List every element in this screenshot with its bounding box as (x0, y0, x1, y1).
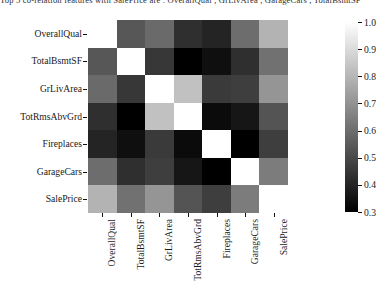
heatmap-cell (145, 75, 174, 103)
heatmap-cell (259, 158, 288, 186)
heatmap-cell (202, 185, 231, 213)
heatmap-cell (231, 20, 260, 48)
heatmap-cell (88, 75, 117, 103)
x-axis-tick-mark (274, 213, 275, 217)
heatmap-cell (88, 130, 117, 158)
figure-caption-text: Top 5 co-relation features with SalePric… (0, 0, 379, 6)
heatmap-cell (231, 185, 260, 213)
colorbar-tick-label: 0.7 (364, 98, 376, 109)
heatmap-plot-area (88, 20, 288, 213)
colorbar-tick-label: 0.9 (364, 44, 376, 55)
y-axis-tick-label: GarageCars (37, 166, 82, 178)
heatmap-cell (259, 185, 288, 213)
x-axis-tick-label: SalePrice (278, 219, 289, 255)
heatmap-cell (88, 158, 117, 186)
heatmap-cell (231, 103, 260, 131)
x-axis-tick-mark (159, 213, 160, 217)
x-axis-tick-mark (245, 213, 246, 217)
heatmap-cell (202, 158, 231, 186)
heatmap-cell (117, 75, 146, 103)
y-axis-tick-label: Fireplaces (43, 138, 82, 150)
heatmap-cell (145, 48, 174, 76)
heatmap-cell (202, 130, 231, 158)
heatmap-cell (202, 103, 231, 131)
heatmap-cell (117, 130, 146, 158)
colorbar-tick-mark (358, 76, 362, 77)
y-axis-tick-label: TotRmsAbvGrd (20, 111, 82, 123)
x-axis-tick-label: Fireplaces (221, 219, 232, 258)
colorbar-tick-label: 0.6 (364, 125, 376, 136)
heatmap-cell (88, 20, 117, 48)
colorbar-tick-mark (358, 131, 362, 132)
colorbar-tick-mark (358, 158, 362, 159)
heatmap-cell (231, 158, 260, 186)
x-axis-tick-label: GarageCars (249, 219, 260, 264)
heatmap-grid (88, 20, 288, 213)
heatmap-figure: Top 5 co-relation features with SalePric… (0, 0, 379, 306)
colorbar-tick-label: 1.0 (364, 17, 376, 28)
heatmap-cell (259, 20, 288, 48)
heatmap-cell (202, 20, 231, 48)
colorbar-gradient (345, 22, 358, 212)
y-axis-tick-label: GrLivArea (40, 83, 82, 95)
colorbar-tick-mark (358, 49, 362, 50)
heatmap-cell (145, 103, 174, 131)
heatmap-cell (259, 130, 288, 158)
heatmap-cell (145, 20, 174, 48)
heatmap-cell (117, 158, 146, 186)
heatmap-cell (202, 48, 231, 76)
y-axis-tick-mark (83, 199, 87, 200)
heatmap-cell (88, 103, 117, 131)
heatmap-cell (259, 75, 288, 103)
heatmap-cell (174, 48, 203, 76)
x-axis-tick-label: TotalBsmtSF (135, 219, 146, 270)
heatmap-cell (88, 185, 117, 213)
colorbar-tick-mark (358, 103, 362, 104)
heatmap-cell (174, 103, 203, 131)
y-axis-tick-label: OverallQual (35, 28, 82, 40)
heatmap-cell (117, 185, 146, 213)
heatmap-cell (231, 75, 260, 103)
heatmap-cell (145, 130, 174, 158)
heatmap-cell (117, 48, 146, 76)
x-axis-tick-label: GrLivArea (163, 219, 174, 261)
colorbar-tick-label: 0.4 (364, 179, 376, 190)
colorbar-tick-label: 0.5 (364, 152, 376, 163)
x-axis-tick-label: OverallQual (106, 219, 117, 266)
y-axis-tick-label: TotalBsmtSF (31, 55, 82, 67)
colorbar-tick-mark (358, 185, 362, 186)
y-axis-tick-mark (83, 117, 87, 118)
heatmap-cell (174, 75, 203, 103)
colorbar: 1.00.90.80.70.60.50.40.3 (345, 22, 358, 212)
heatmap-cell (231, 130, 260, 158)
colorbar-tick-label: 0.3 (364, 207, 376, 218)
heatmap-cell (117, 103, 146, 131)
heatmap-cell (145, 158, 174, 186)
colorbar-tick-mark (358, 22, 362, 23)
x-axis-tick-label: TotRmsAbvGrd (192, 219, 203, 281)
y-axis-tick-mark (83, 61, 87, 62)
heatmap-cell (88, 48, 117, 76)
heatmap-cell (259, 48, 288, 76)
heatmap-cell (259, 103, 288, 131)
x-axis-tick-mark (102, 213, 103, 217)
colorbar-tick-label: 0.8 (364, 71, 376, 82)
y-axis-tick-mark (83, 144, 87, 145)
x-axis-tick-mark (188, 213, 189, 217)
x-axis-labels: OverallQualTotalBsmtSFGrLivAreaTotRmsAbv… (88, 213, 288, 306)
y-axis-labels: OverallQualTotalBsmtSFGrLivAreaTotRmsAbv… (0, 20, 82, 213)
y-axis-tick-label: SalePrice (46, 193, 82, 205)
x-axis-tick-mark (217, 213, 218, 217)
x-axis-tick-mark (131, 213, 132, 217)
colorbar-tick-mark (358, 212, 362, 213)
heatmap-cell (145, 185, 174, 213)
heatmap-cell (174, 158, 203, 186)
heatmap-cell (202, 75, 231, 103)
heatmap-cell (174, 130, 203, 158)
heatmap-cell (174, 185, 203, 213)
heatmap-cell (174, 20, 203, 48)
y-axis-tick-mark (83, 172, 87, 173)
heatmap-cell (231, 48, 260, 76)
y-axis-tick-mark (83, 34, 87, 35)
heatmap-cell (117, 20, 146, 48)
